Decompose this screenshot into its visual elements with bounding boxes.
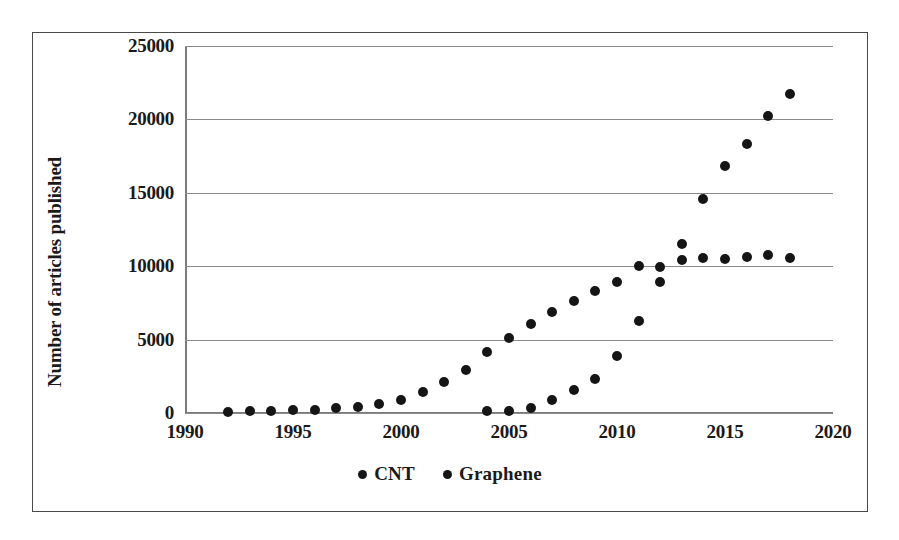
- y-axis-line: [185, 46, 187, 413]
- data-point: [612, 277, 622, 287]
- data-point: [310, 405, 320, 415]
- data-point: [353, 402, 363, 412]
- data-point: [785, 89, 795, 99]
- data-point: [720, 254, 730, 264]
- data-point: [374, 399, 384, 409]
- data-point: [547, 307, 557, 317]
- data-point: [763, 250, 773, 260]
- data-point: [698, 253, 708, 263]
- x-tick-label: 2015: [707, 421, 744, 443]
- data-point: [547, 395, 557, 405]
- data-point: [245, 406, 255, 416]
- data-point: [482, 347, 492, 357]
- legend-marker-icon: [358, 470, 367, 479]
- chart-figure-frame: Number of articles published 05000100001…: [32, 32, 868, 512]
- x-tick-label: 1995: [275, 421, 312, 443]
- data-point: [677, 239, 687, 249]
- data-point: [590, 374, 600, 384]
- data-point: [698, 194, 708, 204]
- y-tick-label: 10000: [128, 255, 174, 277]
- x-tick-label: 2010: [599, 421, 636, 443]
- data-point: [634, 316, 644, 326]
- data-point: [461, 365, 471, 375]
- plot-area: 0500010000150002000025000 19901995200020…: [185, 46, 833, 413]
- gridline: [185, 266, 833, 267]
- data-point: [266, 406, 276, 416]
- data-point: [482, 406, 492, 416]
- gridline: [185, 193, 833, 194]
- x-tick-label: 2020: [815, 421, 852, 443]
- data-point: [634, 261, 644, 271]
- legend-label-graphene: Graphene: [459, 463, 542, 485]
- legend-label-cnt: CNT: [374, 463, 415, 485]
- x-tick-label: 2000: [383, 421, 420, 443]
- data-point: [526, 403, 536, 413]
- y-axis-title: Number of articles published: [44, 157, 66, 387]
- data-point: [223, 407, 233, 417]
- gridline: [185, 46, 833, 47]
- x-tick-label: 1990: [167, 421, 204, 443]
- data-point: [439, 377, 449, 387]
- legend-item-cnt[interactable]: CNT: [358, 463, 415, 485]
- data-point: [742, 139, 752, 149]
- data-point: [418, 387, 428, 397]
- data-point: [569, 296, 579, 306]
- data-point: [504, 406, 514, 416]
- data-point: [612, 351, 622, 361]
- legend-item-graphene[interactable]: Graphene: [443, 463, 542, 485]
- data-point: [677, 255, 687, 265]
- y-tick-label: 15000: [128, 182, 174, 204]
- data-point: [504, 333, 514, 343]
- data-point: [720, 161, 730, 171]
- data-point: [655, 262, 665, 272]
- x-tick-label: 2005: [491, 421, 528, 443]
- chart-legend: CNT Graphene: [33, 463, 867, 485]
- data-point: [396, 395, 406, 405]
- y-tick-label: 20000: [128, 108, 174, 130]
- data-point: [742, 252, 752, 262]
- data-point: [655, 277, 665, 287]
- gridline: [185, 119, 833, 120]
- data-point: [569, 385, 579, 395]
- y-tick-label: 25000: [128, 35, 174, 57]
- data-point: [590, 286, 600, 296]
- y-tick-label: 5000: [137, 329, 174, 351]
- data-point: [526, 319, 536, 329]
- data-point: [785, 253, 795, 263]
- legend-marker-icon: [443, 470, 452, 479]
